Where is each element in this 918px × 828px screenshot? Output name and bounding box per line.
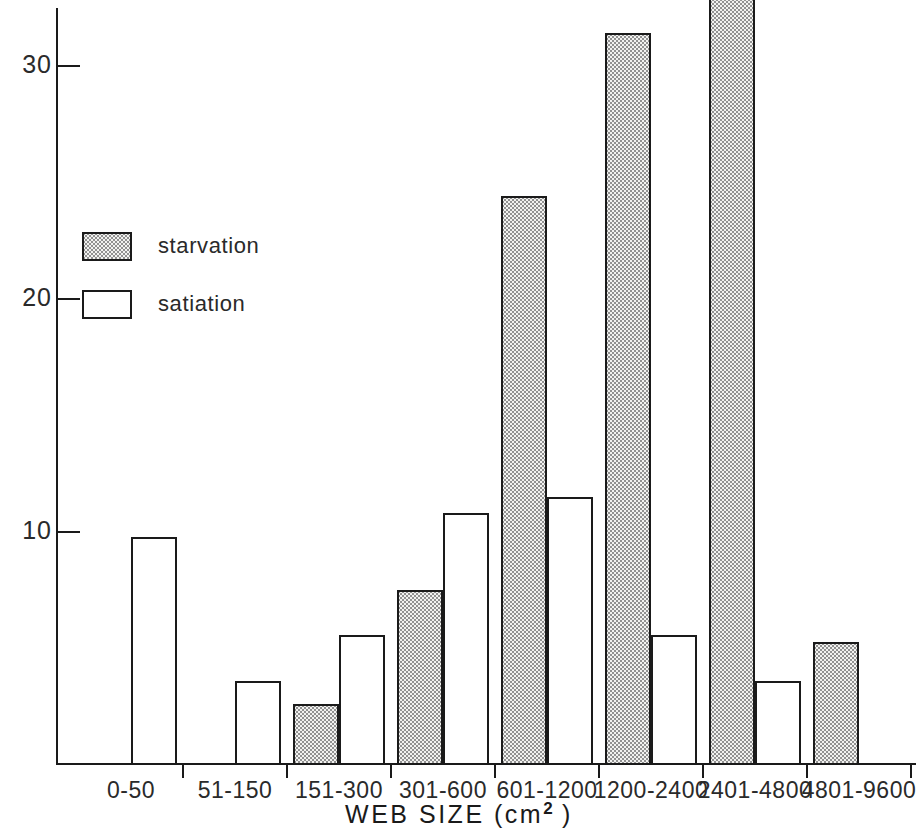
chart-legend: starvationsatiation xyxy=(82,224,259,340)
legend-label-satiation: satiation xyxy=(158,293,245,315)
bar-satiation-0-50 xyxy=(131,537,177,765)
x-axis-tick xyxy=(286,765,288,778)
legend-swatch-satiation xyxy=(82,290,132,319)
bar-satiation-2401-4800 xyxy=(755,681,801,765)
x-axis-label-4801-9600: 4801-9600 xyxy=(799,779,918,802)
x-axis-title-superscript: 2 xyxy=(543,799,552,818)
bar-starvation-151-300 xyxy=(293,704,339,765)
x-axis-label-2401-4800: 2401-4800 xyxy=(695,779,815,802)
x-axis-label-1200-2400: 1200-2400 xyxy=(591,779,711,802)
x-axis-label-151-300: 151-300 xyxy=(279,779,399,802)
bar-starvation-301-600 xyxy=(397,590,443,765)
bar-satiation-151-300 xyxy=(339,635,385,765)
x-axis-tick xyxy=(390,765,392,778)
legend-swatch-starvation xyxy=(82,232,132,261)
x-axis-label-0-50: 0-50 xyxy=(71,779,191,802)
x-axis-label-301-600: 301-600 xyxy=(383,779,503,802)
y-axis-tick-label: 30 xyxy=(2,52,52,77)
x-axis-tick xyxy=(182,765,184,778)
bar-starvation-601-1200 xyxy=(501,196,547,765)
x-axis-title-text: WEB SIZE (cm xyxy=(345,800,543,828)
x-axis-label-51-150: 51-150 xyxy=(175,779,295,802)
bar-satiation-601-1200 xyxy=(547,497,593,765)
y-axis-tick-label: 10 xyxy=(2,518,52,543)
x-axis-title: WEB SIZE (cm2 ) xyxy=(0,800,918,827)
y-axis-tick-label: 20 xyxy=(2,285,52,310)
legend-item-satiation: satiation xyxy=(82,282,259,326)
bar-starvation-1200-2400 xyxy=(605,33,651,765)
plot-area xyxy=(58,8,916,765)
y-axis-tick-label-wrap: 10 xyxy=(0,518,52,544)
legend-item-starvation: starvation xyxy=(82,224,259,268)
bar-starvation-2401-4800 xyxy=(709,0,755,765)
legend-label-starvation: starvation xyxy=(158,235,259,257)
y-axis-tick-label-wrap: 20 xyxy=(0,285,52,311)
x-axis-title-tail: ) xyxy=(553,800,573,828)
y-axis-tick-label-wrap: 30 xyxy=(0,52,52,78)
bar-satiation-51-150 xyxy=(235,681,281,765)
bar-satiation-301-600 xyxy=(443,513,489,765)
bar-satiation-1200-2400 xyxy=(651,635,697,765)
bar-starvation-4801-9600 xyxy=(813,642,859,765)
